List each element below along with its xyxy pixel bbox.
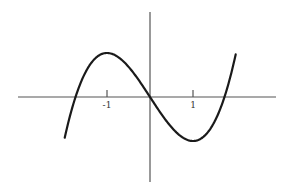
plot-area [0, 0, 289, 192]
x-tick-label-pos1: 1 [190, 101, 196, 110]
cubic-function-graph: -1 1 [0, 0, 289, 192]
x-tick-label-neg1: -1 [103, 101, 112, 110]
